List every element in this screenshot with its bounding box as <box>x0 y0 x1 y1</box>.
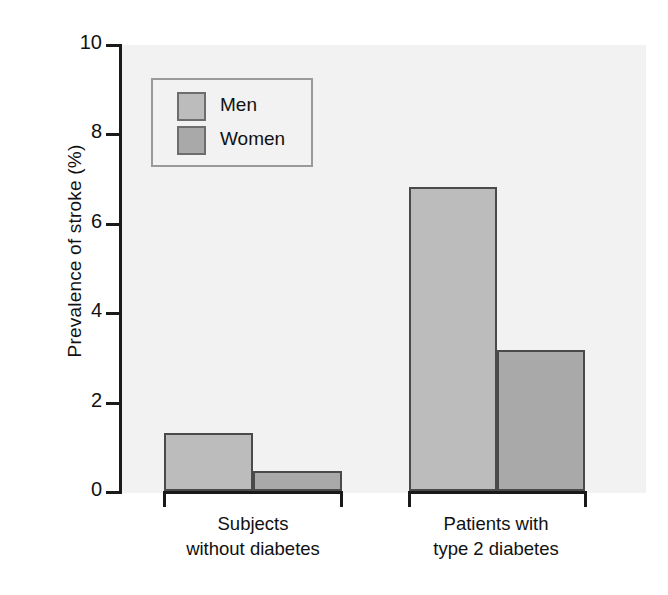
bar-men-patients-type-2-diabetes <box>409 187 497 491</box>
y-tick-mark-8 <box>106 133 121 136</box>
category-label-patients-type-2-diabetes: Patients with type 2 diabetes <box>396 511 596 561</box>
y-tick-mark-4 <box>106 312 121 315</box>
bar-men-subjects-without-diabetes <box>164 433 253 491</box>
legend-label-women: Women <box>220 128 285 150</box>
y-tick-mark-6 <box>106 223 121 226</box>
x-axis-cap-group-2-right <box>584 491 587 507</box>
legend: Men Women <box>151 78 313 167</box>
y-tick-mark-10 <box>106 44 121 47</box>
legend-swatch-men-icon <box>177 92 206 121</box>
bar-group-patients-type-2-diabetes <box>409 41 585 491</box>
legend-label-men: Men <box>220 94 257 116</box>
x-axis-cap-group-1-left <box>163 491 166 507</box>
category-label-line-1: Subjects <box>153 511 353 536</box>
x-axis-cap-group-2-left <box>408 491 411 507</box>
y-axis-spine <box>119 44 122 494</box>
category-label-line-1: Patients with <box>396 511 596 536</box>
y-tick-label-10: 10 <box>42 31 102 54</box>
y-tick-label-6: 6 <box>42 210 102 233</box>
category-label-line-2: type 2 diabetes <box>396 536 596 561</box>
y-tick-labels: 10 8 6 4 2 0 <box>32 0 102 595</box>
x-axis-cap-group-1-right <box>340 491 343 507</box>
y-tick-label-8: 8 <box>42 120 102 143</box>
category-label-line-2: without diabetes <box>153 536 353 561</box>
x-axis-spine-group-1 <box>163 491 343 494</box>
bar-women-patients-type-2-diabetes <box>497 350 585 491</box>
bar-chart-figure: Prevalence of stroke (%) 10 8 6 4 2 0 Su… <box>0 0 668 595</box>
bar-women-subjects-without-diabetes <box>253 471 342 491</box>
category-label-subjects-without-diabetes: Subjects without diabetes <box>153 511 353 561</box>
y-tick-mark-0 <box>106 491 121 494</box>
x-axis-spine-group-2 <box>408 491 587 494</box>
legend-swatch-women-icon <box>177 126 206 155</box>
y-tick-label-2: 2 <box>42 389 102 412</box>
y-tick-mark-2 <box>106 402 121 405</box>
y-tick-label-4: 4 <box>42 299 102 322</box>
y-tick-label-0: 0 <box>42 478 102 501</box>
